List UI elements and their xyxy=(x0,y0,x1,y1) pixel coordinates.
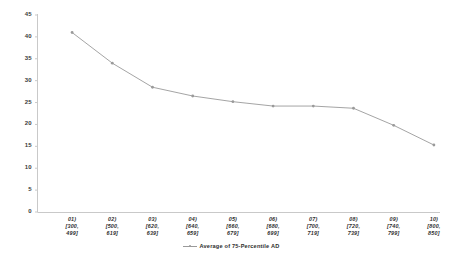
x-axis-tick-label-line: 639] xyxy=(133,230,173,237)
x-axis-tick-label-line: [700, xyxy=(293,223,333,230)
data-point-marker xyxy=(392,124,395,127)
data-point-marker xyxy=(433,144,436,147)
y-axis-tick-label: 30 xyxy=(10,77,32,83)
y-axis-tick-label: 35 xyxy=(10,55,32,61)
y-axis-tick-label: 45 xyxy=(10,11,32,17)
x-axis-tick-label: 07)[700,719] xyxy=(293,216,333,238)
y-axis-tick-label: 20 xyxy=(10,120,32,126)
x-axis-tick-label-line: [740, xyxy=(374,223,414,230)
x-axis-tick-label: 06)[680,699] xyxy=(253,216,293,238)
y-axis-tick-label: 10 xyxy=(10,164,32,170)
x-axis-tick-label-line: 04) xyxy=(173,216,213,223)
legend-line-swatch xyxy=(183,246,197,247)
data-point-marker xyxy=(71,31,74,34)
x-axis-tick-label-line: 719] xyxy=(293,230,333,237)
x-axis-tick-label: 09)[740,799] xyxy=(374,216,414,238)
x-axis-tick-label-line: 01) xyxy=(52,216,92,223)
x-axis-tick-label-line: [720, xyxy=(334,223,374,230)
x-axis-tick-label-line: 07) xyxy=(293,216,333,223)
chart-page: 051015202530354045 01)[300,499]02)[500,6… xyxy=(0,0,462,258)
x-axis-tick-label-line: 06) xyxy=(253,216,293,223)
x-axis-tick-label-line: 850] xyxy=(414,230,454,237)
data-point-marker xyxy=(352,107,355,110)
x-axis-tick-label-line: 659] xyxy=(173,230,213,237)
x-axis-tick-label-line: [620, xyxy=(133,223,173,230)
x-axis-tick-label: 01)[300,499] xyxy=(52,216,92,238)
data-point-marker xyxy=(151,86,154,89)
y-axis-tick-label: 5 xyxy=(10,186,32,192)
x-axis-tick-label: 03)[620,639] xyxy=(133,216,173,238)
y-axis-tick-label: 25 xyxy=(10,99,32,105)
y-axis-tick-label: 40 xyxy=(10,33,32,39)
x-axis-tick-label: 05)[660,679] xyxy=(213,216,253,238)
x-axis-tick-label-line: [680, xyxy=(253,223,293,230)
data-point-marker xyxy=(191,95,194,98)
y-axis-tick-label: 15 xyxy=(10,142,32,148)
x-axis-tick-label-line: 799] xyxy=(374,230,414,237)
x-axis-tick-label: 04)[640,659] xyxy=(173,216,213,238)
series-markers xyxy=(71,31,436,146)
x-axis-tick-label-line: 499] xyxy=(52,230,92,237)
x-axis-tick-label: 08)[720,739] xyxy=(334,216,374,238)
x-axis-tick-label-line: 08) xyxy=(334,216,374,223)
x-axis-tick-label-line: 739] xyxy=(334,230,374,237)
x-axis-tick-label-line: 05) xyxy=(213,216,253,223)
x-axis-tick-label-line: [500, xyxy=(92,223,132,230)
data-point-marker xyxy=(232,100,235,103)
x-axis-tick-label-line: 09) xyxy=(374,216,414,223)
x-axis-tick-label-line: [640, xyxy=(173,223,213,230)
x-axis-tick-label-line: 03) xyxy=(133,216,173,223)
x-axis-tick-label-line: [660, xyxy=(213,223,253,230)
legend-label: Average of 75-Percentile AD xyxy=(200,243,280,249)
x-axis-tick-label-line: 02) xyxy=(92,216,132,223)
data-point-marker xyxy=(312,105,315,108)
x-axis-tick-label-line: [300, xyxy=(52,223,92,230)
x-axis-tick-label: 10)[800,850] xyxy=(414,216,454,238)
series-line-average-of-75-percentile-ad xyxy=(72,33,434,146)
x-axis-tick-label-line: [800, xyxy=(414,223,454,230)
chart-legend: Average of 75-Percentile AD xyxy=(0,243,462,249)
data-point-marker xyxy=(272,105,275,108)
x-axis-tick-label-line: 679] xyxy=(213,230,253,237)
y-axis-tick-label: 0 xyxy=(10,208,32,214)
x-axis-tick-label-line: 10) xyxy=(414,216,454,223)
x-axis-tick-label-line: 699] xyxy=(253,230,293,237)
x-axis-tick-label-line: 619] xyxy=(92,230,132,237)
data-point-marker xyxy=(111,62,114,65)
x-axis-tick-label: 02)[500,619] xyxy=(92,216,132,238)
